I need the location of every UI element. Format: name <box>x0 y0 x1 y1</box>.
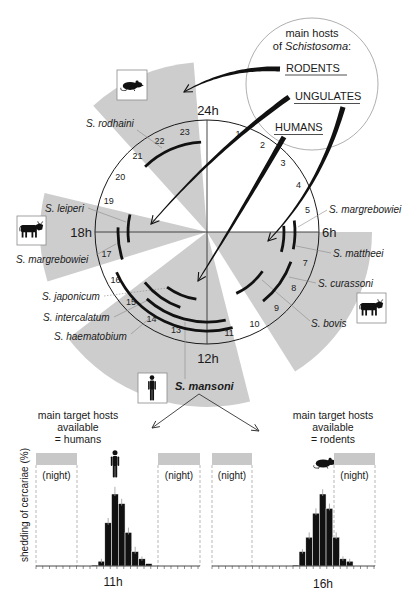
shedding-arc-margrebowiei <box>293 221 295 250</box>
schistosoma-shedding-figure: main hosts of Schistosoma: RODENTS UNGUL… <box>0 0 412 600</box>
peak-time-label: 16h <box>313 577 333 591</box>
rat-icon <box>314 458 337 469</box>
panel-rodents-title-line1: main target hosts <box>293 409 374 421</box>
host-legend: main hosts of Schistosoma: RODENTS UNGUL… <box>246 18 378 150</box>
night-band <box>334 453 375 465</box>
hour-number: 5 <box>305 205 310 215</box>
histogram-bar <box>306 537 313 566</box>
hour-number: 3 <box>280 158 285 168</box>
histogram-bar <box>313 513 320 566</box>
night-label: (night) <box>340 470 368 481</box>
species-label-intercalatum: S. intercalatum <box>43 312 110 323</box>
panel-rodents-title-line3: = rodents <box>311 433 355 445</box>
title-genus: Schistosoma <box>285 40 348 52</box>
hour-number: 10 <box>249 319 259 329</box>
host-ungulates-label: UNGULATES <box>295 90 361 102</box>
histogram-bar <box>118 504 125 566</box>
histogram-bar <box>112 494 119 566</box>
histogram-bar <box>319 494 326 566</box>
night-band <box>158 453 200 465</box>
histogram-bar <box>132 552 139 566</box>
species-label-curassoni: S. curassoni <box>318 278 374 289</box>
hour-number: 21 <box>132 151 142 161</box>
y-axis-label: shedding of cercariae (%) <box>19 448 30 562</box>
hour-number: 4 <box>296 180 301 190</box>
species-label-mansoni: S. mansoni <box>175 380 235 392</box>
species-label-mattheei: S. mattheei <box>333 248 384 259</box>
panel-humans-title-line2: available <box>57 421 99 433</box>
host-legend-title-line2: of Schistosoma: <box>273 40 351 52</box>
host-arrow-rodents <box>184 66 280 92</box>
title-prefix: of <box>273 40 285 52</box>
human-icon <box>111 450 119 477</box>
host-sector-rodents <box>93 63 207 232</box>
histogram-bar <box>326 508 333 566</box>
night-label: (night) <box>42 470 70 481</box>
title-suffix: : <box>348 40 351 52</box>
hour-number: 8 <box>291 283 296 293</box>
species-label-margrebowiei-west: S. margrebowiei <box>16 254 89 265</box>
night-label: (night) <box>165 470 193 481</box>
night-band <box>36 453 77 465</box>
arrowhead-icon <box>251 424 259 431</box>
histogram-bar <box>125 532 132 566</box>
host-rodents-label: RODENTS <box>286 62 340 74</box>
hour-number: 7 <box>303 258 308 268</box>
hour-number: 9 <box>274 303 279 313</box>
species-label-bovis: S. bovis <box>311 318 347 329</box>
hour-number: 2 <box>260 140 265 150</box>
species-label-japonicum: S. japonicum <box>42 291 100 302</box>
hour-number: 22 <box>154 136 164 146</box>
panel-humans: main target hosts available = humans (ni… <box>36 409 200 589</box>
species-label-leiperi: S. leiperi <box>45 203 85 214</box>
panel-humans-title-line1: main target hosts <box>38 409 119 421</box>
panel-rodents: main target hosts available = rodents (n… <box>212 409 375 591</box>
panel-humans-title-line3: = humans <box>55 433 101 445</box>
night-band <box>212 453 252 465</box>
label-6h: 6h <box>322 225 336 240</box>
label-12h: 12h <box>197 351 219 366</box>
hour-number: 20 <box>115 172 125 182</box>
species-label-margrebowiei-east: S. margrebowiei <box>329 204 402 215</box>
histogram-bar <box>299 552 306 566</box>
host-humans-label: HUMANS <box>275 121 323 133</box>
host-legend-title-line1: main hosts <box>285 27 339 39</box>
panel-rodents-title-line2: available <box>312 421 354 433</box>
hour-number: 23 <box>180 127 190 137</box>
histogram-bar <box>105 523 112 566</box>
hour-number: 19 <box>104 196 114 206</box>
histogram-bar <box>333 537 340 566</box>
label-18h: 18h <box>70 225 92 240</box>
night-label: (night) <box>218 470 246 481</box>
species-label-haematobium: S. haematobium <box>54 331 127 342</box>
peak-time-label: 11h <box>103 575 122 589</box>
species-label-rodhaini: S. rodhaini <box>86 118 135 129</box>
label-24h: 24h <box>197 103 219 118</box>
